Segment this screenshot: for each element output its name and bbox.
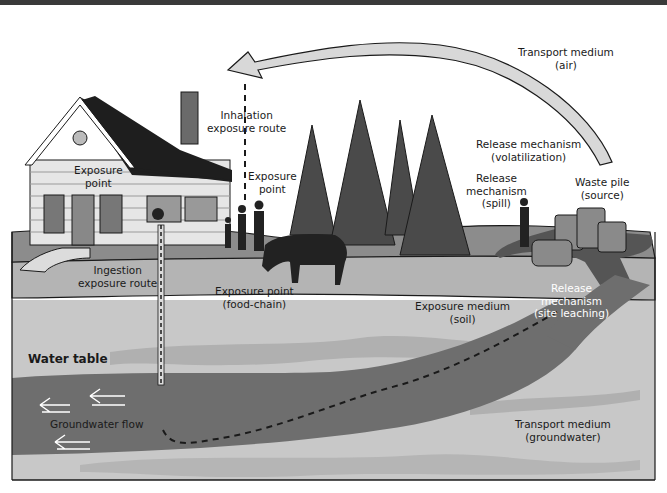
label-line: (volatilization) [476, 151, 581, 164]
label-groundwater-flow: Groundwater flow [50, 418, 144, 431]
label-line: (spill) [466, 197, 527, 210]
label-line: (source) [575, 189, 630, 202]
label-inhalation: Inhalation exposure route [207, 109, 286, 134]
label-line: point [74, 177, 123, 190]
label-exposure-point-food: Exposure point (food-chain) [215, 285, 294, 310]
house [20, 92, 232, 272]
label-line: mechanism [466, 185, 527, 198]
label-release-leaching: Release mechanism (site leaching) [534, 282, 609, 320]
label-line: mechanism [534, 295, 609, 308]
label-line: Ingestion [78, 264, 157, 277]
label-waste-pile: Waste pile (source) [575, 176, 630, 201]
label-line: (food-chain) [215, 298, 294, 311]
label-water-table: Water table [28, 353, 108, 366]
label-line: exposure route [78, 277, 157, 290]
label-release-spill: Release mechanism (spill) [466, 172, 527, 210]
label-line: (air) [518, 59, 614, 72]
label-exposure-medium-soil: Exposure medium (soil) [415, 300, 510, 325]
label-ingestion: Ingestion exposure route [78, 264, 157, 289]
label-line: Exposure point [215, 285, 294, 298]
label-line: point [248, 183, 297, 196]
label-line: Release [534, 282, 609, 295]
label-line: exposure route [207, 122, 286, 135]
label-line: (site leaching) [534, 307, 609, 320]
label-line: Exposure [74, 164, 123, 177]
label-line: Transport medium [515, 418, 611, 431]
label-line: Release [466, 172, 527, 185]
label-line: Transport medium [518, 46, 614, 59]
label-line: Release mechanism [476, 138, 581, 151]
label-transport-groundwater: Transport medium (groundwater) [515, 418, 611, 443]
forest [290, 100, 470, 255]
label-line: (groundwater) [515, 431, 611, 444]
label-transport-air: Transport medium (air) [518, 46, 614, 71]
label-line: Inhalation [207, 109, 286, 122]
label-release-volatilization: Release mechanism (volatilization) [476, 138, 581, 163]
label-line: Exposure [248, 170, 297, 183]
label-line: (soil) [415, 313, 510, 326]
label-line: Waste pile [575, 176, 630, 189]
label-line: Exposure medium [415, 300, 510, 313]
label-exposure-point-house: Exposure point [74, 164, 123, 189]
label-exposure-point-people: Exposure point [248, 170, 297, 195]
